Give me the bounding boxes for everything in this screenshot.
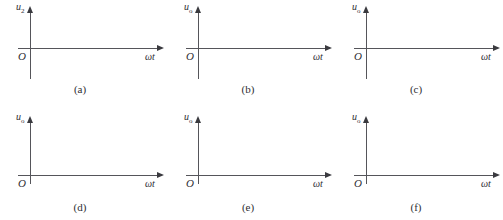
y-axis-arrow-icon [195, 116, 201, 123]
y-axis-arrow-icon [363, 116, 369, 123]
x-axis-arrow-icon [325, 45, 332, 51]
x-axis-line [18, 175, 158, 176]
panel-caption: (b) [218, 84, 278, 95]
x-axis-label: ωt [313, 179, 323, 189]
x-axis-arrow-icon [493, 172, 500, 178]
y-axis-label: uo [16, 112, 25, 125]
x-axis-line [186, 48, 326, 49]
panel-caption: (a) [50, 84, 110, 95]
y-axis-label: uo [184, 112, 193, 125]
x-axis-arrow-icon [325, 172, 332, 178]
panel-f: uo O ωt (f) [336, 108, 503, 218]
figure-sheet: u2 O ωt (a) uo O ωt (b) uo O ωt (c) uo O… [0, 0, 503, 220]
panel-d: uo O ωt (d) [0, 108, 168, 218]
panel-caption: (f) [386, 202, 446, 213]
x-axis-line [186, 175, 326, 176]
y-axis-arrow-icon [27, 6, 33, 13]
panel-b: uo O ωt (b) [168, 0, 336, 110]
origin-label: O [186, 178, 194, 189]
x-axis-line [18, 48, 158, 49]
y-axis-arrow-icon [363, 6, 369, 13]
x-axis-label: ωt [481, 179, 491, 189]
x-axis-line [354, 48, 494, 49]
x-axis-arrow-icon [157, 172, 164, 178]
y-axis-label-subscript: o [189, 7, 193, 15]
y-axis-label: uo [184, 2, 193, 15]
panel-caption: (c) [386, 84, 446, 95]
y-axis-line [198, 12, 199, 79]
panel-a: u2 O ωt (a) [0, 0, 168, 110]
y-axis-label-subscript: o [21, 117, 25, 125]
x-axis-label: ωt [313, 52, 323, 62]
y-axis-label: u2 [16, 2, 25, 15]
x-axis-label: ωt [145, 179, 155, 189]
origin-label: O [354, 51, 362, 62]
y-axis-label-subscript: o [189, 117, 193, 125]
panel-e: uo O ωt (e) [168, 108, 336, 218]
x-axis-line [354, 175, 494, 176]
y-axis-label: uo [352, 112, 361, 125]
y-axis-line [30, 12, 31, 79]
y-axis-arrow-icon [195, 6, 201, 13]
origin-label: O [18, 178, 26, 189]
y-axis-label-subscript: o [357, 7, 361, 15]
y-axis-label-subscript: 2 [21, 7, 25, 15]
y-axis-label: uo [352, 2, 361, 15]
y-axis-line [366, 12, 367, 79]
x-axis-arrow-icon [493, 45, 500, 51]
panel-caption: (d) [50, 202, 110, 213]
x-axis-label: ωt [481, 52, 491, 62]
origin-label: O [18, 51, 26, 62]
panel-caption: (e) [218, 202, 278, 213]
origin-label: O [354, 178, 362, 189]
origin-label: O [186, 51, 194, 62]
y-axis-arrow-icon [27, 116, 33, 123]
x-axis-arrow-icon [157, 45, 164, 51]
y-axis-label-subscript: o [357, 117, 361, 125]
panel-c: uo O ωt (c) [336, 0, 503, 110]
x-axis-label: ωt [145, 52, 155, 62]
